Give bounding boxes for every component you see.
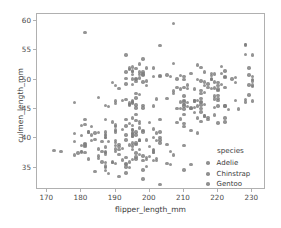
legend-item-adelie[interactable]: Adelie xyxy=(206,158,250,169)
data-point xyxy=(128,143,131,146)
y-axis-tick-label: 60 xyxy=(22,16,31,25)
data-point xyxy=(134,106,137,109)
legend: species AdelieChinstrapGentoo xyxy=(206,146,250,190)
data-point xyxy=(158,44,161,47)
data-point xyxy=(165,143,168,146)
data-point xyxy=(193,106,196,109)
data-point xyxy=(93,170,96,173)
data-point xyxy=(206,118,209,121)
data-point xyxy=(83,145,86,148)
data-point xyxy=(104,136,107,139)
data-point xyxy=(117,148,120,151)
data-point xyxy=(73,140,76,143)
legend-marker-icon xyxy=(206,182,210,186)
data-point xyxy=(148,145,151,148)
data-point xyxy=(114,130,117,133)
data-point xyxy=(251,99,254,102)
y-axis-tick xyxy=(33,137,36,138)
data-point xyxy=(223,86,226,89)
data-point xyxy=(83,31,86,34)
data-point xyxy=(138,148,141,151)
x-axis-tick xyxy=(183,189,184,192)
data-point xyxy=(114,99,117,102)
data-point xyxy=(203,103,206,106)
data-point xyxy=(251,53,254,56)
data-point xyxy=(141,154,144,157)
data-point xyxy=(220,65,223,68)
data-point xyxy=(83,118,86,121)
data-point xyxy=(189,163,192,166)
data-point xyxy=(117,143,120,146)
data-point xyxy=(169,75,172,78)
data-point xyxy=(148,155,151,158)
data-point xyxy=(247,93,250,96)
data-point xyxy=(244,100,247,103)
data-point xyxy=(104,118,107,121)
data-point xyxy=(80,134,83,137)
data-point xyxy=(73,132,76,135)
data-point xyxy=(152,66,155,69)
data-point xyxy=(97,96,100,99)
data-point xyxy=(237,107,240,110)
x-axis-tick-label: 230 xyxy=(244,193,258,202)
data-point xyxy=(131,124,134,127)
data-point xyxy=(131,73,134,76)
data-point xyxy=(124,118,127,121)
x-axis-tick xyxy=(115,189,116,192)
data-point xyxy=(138,93,141,96)
data-point xyxy=(73,101,76,104)
data-point xyxy=(203,80,206,83)
data-point xyxy=(216,104,219,107)
data-point xyxy=(175,121,178,124)
x-axis-tick-label: 200 xyxy=(142,193,156,202)
data-point xyxy=(165,73,168,76)
legend-title: species xyxy=(217,146,250,155)
data-point xyxy=(107,140,110,143)
data-point xyxy=(111,120,114,123)
data-point xyxy=(216,97,219,100)
data-point xyxy=(76,151,79,154)
data-point xyxy=(141,177,144,180)
data-point xyxy=(134,113,137,116)
data-point xyxy=(199,66,202,69)
data-point xyxy=(251,79,254,82)
data-point xyxy=(114,102,117,105)
data-point xyxy=(131,83,134,86)
data-point xyxy=(179,87,182,90)
data-point xyxy=(124,124,127,127)
data-point xyxy=(124,53,127,56)
data-point xyxy=(145,79,148,82)
data-point xyxy=(223,120,226,123)
data-point xyxy=(158,141,161,144)
data-point xyxy=(244,43,247,46)
data-point xyxy=(199,110,202,113)
data-point xyxy=(216,121,219,124)
data-point xyxy=(104,150,107,153)
data-point xyxy=(138,139,141,142)
data-point xyxy=(193,111,196,114)
data-point xyxy=(234,76,237,79)
data-point xyxy=(189,72,192,75)
data-point xyxy=(223,104,226,107)
data-point xyxy=(152,148,155,151)
data-point xyxy=(124,82,127,85)
data-point xyxy=(107,105,110,108)
data-point xyxy=(182,100,185,103)
data-point xyxy=(213,113,216,116)
data-point xyxy=(100,140,103,143)
data-point xyxy=(131,133,134,136)
data-point xyxy=(90,125,93,128)
x-axis-tick xyxy=(251,189,252,192)
legend-item-gentoo[interactable]: Gentoo xyxy=(206,179,250,190)
data-point xyxy=(196,116,199,119)
data-point xyxy=(124,77,127,80)
data-point xyxy=(182,168,185,171)
legend-item-chinstrap[interactable]: Chinstrap xyxy=(206,169,250,180)
data-point xyxy=(124,98,127,101)
data-point xyxy=(138,76,141,79)
data-point xyxy=(234,99,237,102)
data-point xyxy=(124,70,127,73)
data-point xyxy=(223,116,226,119)
data-point xyxy=(165,97,168,100)
data-point xyxy=(114,162,117,165)
